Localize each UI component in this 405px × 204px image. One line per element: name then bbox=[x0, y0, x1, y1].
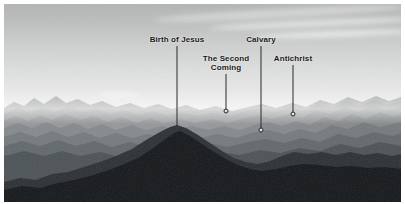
screenshot-root: Birth of JesusThe Second ComingCalvaryAn… bbox=[0, 0, 405, 204]
annotation-label-antichrist: Antichrist bbox=[274, 54, 312, 63]
annotation-label-the-second-coming: The Second Coming bbox=[203, 54, 249, 72]
annotation-marker-dot-antichrist bbox=[291, 112, 296, 117]
annotation-label-birth-of-jesus: Birth of Jesus bbox=[150, 35, 205, 44]
annotation-leader-line-the-second-coming bbox=[226, 74, 227, 111]
mountain-photograph: Birth of JesusThe Second ComingCalvaryAn… bbox=[4, 4, 401, 202]
annotation-leader-line-antichrist bbox=[293, 65, 294, 114]
atmospheric-haze bbox=[4, 90, 401, 124]
annotation-label-calvary: Calvary bbox=[246, 35, 276, 44]
annotation-marker-dot-calvary bbox=[259, 128, 264, 133]
annotation-leader-line-calvary bbox=[261, 46, 262, 130]
annotation-marker-dot-the-second-coming bbox=[224, 109, 229, 114]
annotation-leader-line-birth-of-jesus bbox=[177, 46, 178, 126]
